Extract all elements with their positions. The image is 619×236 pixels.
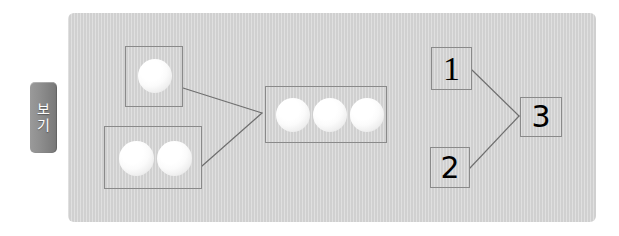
group-box-top-left[interactable] [125,46,183,107]
ball [119,141,154,176]
numeral-box-3[interactable]: 3 [520,97,562,137]
view-tab[interactable]: 보 기 [30,82,57,153]
ball [313,98,347,132]
ball [350,98,384,132]
ball [138,59,172,93]
group-box-bottom-left[interactable] [104,126,202,189]
screenshot-root: 보 기 1 2 3 [0,0,619,236]
ball [157,141,192,176]
view-tab-char-1: 보 [37,102,50,117]
numeral-box-2[interactable]: 2 [430,147,470,188]
ball [276,98,310,132]
numeral-box-1[interactable]: 1 [431,47,472,90]
group-box-combined[interactable] [265,86,387,143]
view-tab-char-2: 기 [37,118,50,133]
